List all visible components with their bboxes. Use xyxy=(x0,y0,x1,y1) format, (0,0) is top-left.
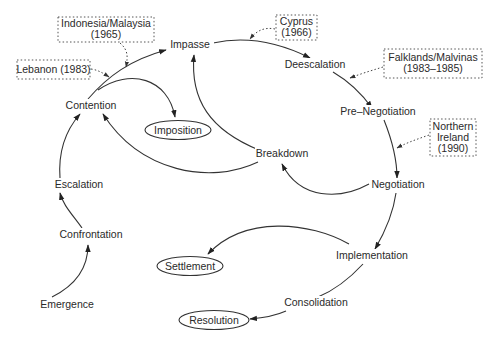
edge-negotiation-breakdown xyxy=(282,164,369,194)
edge-deescalation-prenegotiation xyxy=(333,72,372,108)
annotation-northern-ireland-line3: (1990) xyxy=(438,142,468,154)
edge-impasse-deescalation xyxy=(213,40,310,58)
outcome-settlement-label: Settlement xyxy=(165,260,215,272)
edge-confrontation-escalation xyxy=(60,193,82,228)
edge-contention-impasse xyxy=(88,50,166,99)
stage-impasse: Impasse xyxy=(170,38,210,50)
pointer-northern-ireland xyxy=(397,135,429,148)
outcome-settlement: Settlement xyxy=(157,257,223,276)
stage-deescalation: Deescalation xyxy=(285,58,346,70)
outcome-resolution: Resolution xyxy=(179,311,249,330)
annotation-cyprus-line2: (1966) xyxy=(281,26,311,38)
annotation-pointers xyxy=(91,28,429,148)
stage-emergence: Emergence xyxy=(40,298,94,310)
edge-negotiation-implementation xyxy=(375,193,396,249)
edge-prenegotiation-negotiation xyxy=(384,120,397,178)
annotation-indonesia: Indonesia/Malaysia (1965) xyxy=(58,17,154,42)
edge-escalation-contention xyxy=(60,114,80,178)
annotation-lebanon: Lebanon (1983) xyxy=(16,60,90,79)
outcome-resolution-label: Resolution xyxy=(189,314,239,326)
annotation-cyprus: Cyprus (1966) xyxy=(276,15,317,40)
stage-implementation: Implementation xyxy=(336,249,408,261)
edge-emergence-confrontation xyxy=(52,245,88,297)
pointer-indonesia xyxy=(120,43,127,67)
stage-negotiation: Negotiation xyxy=(371,178,424,190)
edges xyxy=(52,40,397,319)
annotation-northern-ireland: Northern Ireland (1990) xyxy=(430,119,476,156)
annotation-falklands: Falklands/Malvinas (1983–1985) xyxy=(384,49,482,78)
outcome-imposition: Imposition xyxy=(145,121,211,140)
annotation-lebanon-line1: Lebanon (1983) xyxy=(16,63,90,75)
edge-implementation-consolidation xyxy=(318,264,363,297)
edge-consolidation-resolution xyxy=(250,311,286,319)
stage-escalation: Escalation xyxy=(55,178,104,190)
outcome-imposition-label: Imposition xyxy=(154,124,202,136)
edge-implementation-settlement xyxy=(208,226,349,254)
annotation-indonesia-line2: (1965) xyxy=(91,28,121,40)
stage-contention: Contention xyxy=(66,99,117,111)
stage-breakdown: Breakdown xyxy=(256,147,309,159)
stage-consolidation: Consolidation xyxy=(284,296,348,308)
pointer-lebanon xyxy=(91,69,109,77)
conflict-cycle-diagram: Indonesia/Malaysia (1965) Lebanon (1983)… xyxy=(0,0,489,343)
stage-pre-negotiation: Pre–Negotiation xyxy=(340,105,415,117)
annotation-falklands-line2: (1983–1985) xyxy=(403,62,463,74)
pointer-cyprus xyxy=(250,28,275,39)
stage-labels: Impasse Deescalation Pre–Negotiation Con… xyxy=(40,38,425,311)
pointer-falklands xyxy=(350,67,383,78)
stage-confrontation: Confrontation xyxy=(59,228,122,240)
